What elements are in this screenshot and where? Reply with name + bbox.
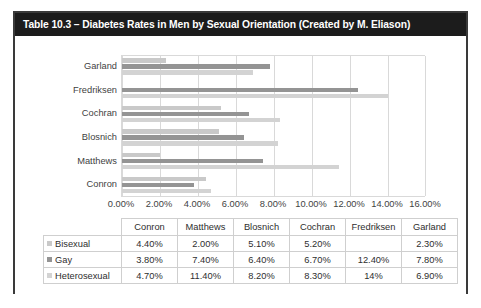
- chart-bar: [122, 129, 219, 134]
- chart-bar: [122, 153, 160, 158]
- table-row-header: Heterosexual: [44, 268, 122, 284]
- chart-x-tick-label: 10.00%: [295, 199, 327, 209]
- table-cell: [346, 236, 402, 252]
- table-cell: 2.00%: [178, 236, 234, 252]
- legend-swatch-gay-icon: [47, 257, 52, 262]
- table-row-label: Gay: [55, 255, 72, 265]
- table-column-header: Garland: [402, 219, 458, 236]
- chart-y-tick-label: Garland: [17, 61, 117, 71]
- table-row: Gay3.80%7.40%6.40%6.70%12.40%7.80%: [44, 252, 458, 268]
- table-cell: 11.40%: [178, 268, 234, 284]
- chart-category-group: [122, 56, 425, 80]
- table-row-header: Bisexual: [44, 236, 122, 252]
- chart-category-group: [122, 127, 425, 151]
- chart-bar: [122, 88, 358, 93]
- page-title: Table 10.3 – Diabetes Rates in Men by Se…: [23, 19, 410, 30]
- chart-bar: [122, 118, 280, 123]
- chart-area: GarlandFredriksenCochranBlosnichMatthews…: [15, 36, 466, 296]
- legend-swatch-heterosexual-icon: [47, 273, 52, 278]
- table-cell: 8.30%: [290, 268, 346, 284]
- table-column-header: Matthews: [178, 219, 234, 236]
- chart-bar: [122, 177, 206, 182]
- chart-bar: [122, 189, 211, 194]
- table-cell: 6.40%: [234, 252, 290, 268]
- table-cell: 2.30%: [402, 236, 458, 252]
- table-row-label: Heterosexual: [55, 271, 110, 281]
- table-column-header: Conron: [122, 219, 178, 236]
- chart-x-tick-label: 16.00%: [409, 199, 441, 209]
- table-cell: 4.40%: [122, 236, 178, 252]
- chart-x-tick-label: 0.00%: [108, 199, 134, 209]
- data-table: ConronMatthewsBlosnichCochranFredriksenG…: [43, 218, 458, 284]
- chart-bar: [122, 94, 388, 99]
- table-cell: 14%: [346, 268, 402, 284]
- table-cell: 6.90%: [402, 268, 458, 284]
- table-cell: 6.70%: [290, 252, 346, 268]
- chart-plot-inner: [122, 56, 425, 196]
- table-cell: 3.80%: [122, 252, 178, 268]
- chart-bar: [122, 183, 194, 188]
- chart-bar: [122, 159, 263, 164]
- table-header-row: ConronMatthewsBlosnichCochranFredriksenG…: [44, 219, 458, 236]
- table-cell: 5.10%: [234, 236, 290, 252]
- chart-y-axis-labels: GarlandFredriksenCochranBlosnichMatthews…: [15, 55, 117, 197]
- figure-title-bar: Table 10.3 – Diabetes Rates in Men by Se…: [15, 13, 466, 36]
- chart-x-tick-label: 4.00%: [184, 199, 210, 209]
- table-column-header: Fredriksen: [346, 219, 402, 236]
- chart-bar: [122, 135, 244, 140]
- table-cell: 7.40%: [178, 252, 234, 268]
- chart-y-tick-label: Matthews: [17, 156, 117, 166]
- chart-category-group: [122, 80, 425, 104]
- table-cell: 4.70%: [122, 268, 178, 284]
- chart-bar: [122, 64, 270, 69]
- chart-x-tick-label: 2.00%: [146, 199, 172, 209]
- table-cell: 12.40%: [346, 252, 402, 268]
- chart-bar: [122, 106, 221, 111]
- table-row-header: Gay: [44, 252, 122, 268]
- chart-bar: [122, 58, 166, 63]
- chart-category-group: [122, 174, 425, 198]
- chart-plot-area: [121, 55, 425, 197]
- chart-x-tick-label: 6.00%: [222, 199, 248, 209]
- chart-bar: [122, 112, 249, 117]
- chart-y-tick-label: Conron: [17, 179, 117, 189]
- chart-y-tick-label: Cochran: [17, 108, 117, 118]
- chart-bar: [122, 165, 339, 170]
- chart-y-tick-label: Fredriksen: [17, 85, 117, 95]
- chart-bar: [122, 141, 278, 146]
- chart-x-axis-labels: 0.00%2.00%4.00%6.00%8.00%10.00%12.00%14.…: [15, 199, 466, 213]
- table-row-label: Bisexual: [55, 239, 90, 249]
- chart-category-group: [122, 151, 425, 175]
- table-row: Heterosexual4.70%11.40%8.20%8.30%14%6.90…: [44, 268, 458, 284]
- table-column-header: Blosnich: [234, 219, 290, 236]
- table-corner-cell: [44, 219, 122, 236]
- table-cell: 7.80%: [402, 252, 458, 268]
- chart-x-tick-label: 14.00%: [371, 199, 403, 209]
- table-row: Bisexual4.40%2.00%5.10%5.20%2.30%: [44, 236, 458, 252]
- chart-category-group: [122, 103, 425, 127]
- chart-bar: [122, 70, 253, 75]
- chart-x-tick-label: 8.00%: [260, 199, 286, 209]
- chart-y-tick-label: Blosnich: [17, 132, 117, 142]
- table-cell: 8.20%: [234, 268, 290, 284]
- table-column-header: Cochran: [290, 219, 346, 236]
- legend-swatch-bisexual-icon: [47, 241, 52, 246]
- figure-container: Table 10.3 – Diabetes Rates in Men by Se…: [13, 11, 468, 294]
- table-body: Bisexual4.40%2.00%5.10%5.20%2.30%Gay3.80…: [44, 236, 458, 284]
- table-cell: 5.20%: [290, 236, 346, 252]
- chart-x-tick-label: 12.00%: [333, 199, 365, 209]
- chart-gridline: [425, 56, 426, 196]
